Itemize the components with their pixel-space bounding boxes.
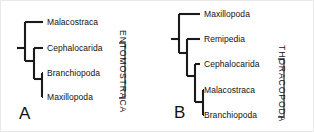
clade-label-entomostraca: ENTOMOSTRACA (118, 30, 127, 113)
taxon-label-maxillopoda: Maxillopoda (47, 93, 93, 102)
taxon-label-remipedia: Remipedia (204, 35, 245, 44)
taxon-label-cephalocarida: Cephalocarida (47, 44, 102, 53)
taxon-label-malacostraca: Malacostraca (47, 18, 98, 27)
clade-label-thoracopoda: THORACOPODA (277, 45, 286, 122)
taxon-label-cephalocarida: Cephalocarida (204, 60, 259, 69)
taxon-label-branchiopoda: Branchiopoda (47, 69, 100, 78)
panel-a: Malacostraca Cephalocarida Branchiopoda … (1, 1, 158, 132)
taxon-label-branchiopoda: Branchiopoda (204, 111, 257, 120)
cladogram-figure: Malacostraca Cephalocarida Branchiopoda … (0, 0, 314, 132)
taxon-label-malacostraca: Malacostraca (204, 86, 255, 95)
panel-letter-b: B (174, 104, 185, 121)
panel-letter-a: A (19, 105, 30, 122)
panel-b: Maxillopoda Remipedia Cephalocarida Mala… (158, 1, 314, 132)
taxon-label-maxillopoda: Maxillopoda (204, 10, 250, 19)
